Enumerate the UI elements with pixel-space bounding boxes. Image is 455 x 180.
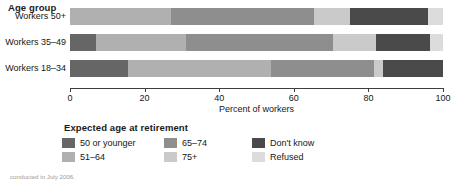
chart-legend: Expected age at retirement 50 or younger… [62,122,362,164]
bar-segment [171,8,315,25]
legend-item: 51–64 [62,152,164,162]
x-axis-line [70,88,444,89]
legend-item: 65–74 [164,138,252,148]
bar-row [70,8,443,25]
category-label: Workers 35–49 [5,37,66,47]
legend-label: 51–64 [80,152,105,162]
legend-item: 75+ [164,152,252,162]
x-axis-tick-label: 40 [214,93,224,103]
bar-row [70,60,443,77]
legend-label: Don't know [270,138,314,148]
x-axis-tick-label: 60 [289,93,299,103]
bar-segment [128,60,272,77]
bar-segment [70,60,128,77]
bar-segment [96,34,186,51]
legend-items: 50 or younger65–74Don't know51–6475+Refu… [62,136,362,164]
bar-segment [383,60,443,77]
legend-label: Refused [270,152,304,162]
bar-segment [333,34,376,51]
legend-swatch [252,152,265,162]
legend-label: 75+ [182,152,197,162]
x-axis-tick [219,88,220,92]
x-axis-tick [70,88,71,92]
legend-swatch [164,152,177,162]
bar-segment [374,60,383,77]
category-label: Workers 18–34 [5,63,66,73]
category-axis-labels: Workers 50+Workers 35–49Workers 18–34 [0,8,66,88]
bar-row [70,34,443,51]
bar-segment [314,8,349,25]
bar-segment [186,34,333,51]
x-axis-title: Percent of workers [70,104,443,114]
legend-swatch [164,138,177,148]
x-axis-tick [443,88,444,92]
x-axis-tick-label: 80 [363,93,373,103]
bar-segment [428,8,443,25]
bar-segment [376,34,430,51]
legend-item: Refused [252,152,362,162]
x-axis-tick-label: 0 [67,93,72,103]
x-axis-tick [368,88,369,92]
category-label: Workers 50+ [15,11,66,21]
legend-swatch [62,138,75,148]
stacked-bar-chart: Age group Workers 50+Workers 35–49Worker… [0,0,455,180]
x-axis-tick [294,88,295,92]
bar-segment [350,8,428,25]
x-axis-tick-label: 20 [140,93,150,103]
legend-item: 50 or younger [62,138,164,148]
legend-swatch [252,138,265,148]
footnote: conducted in July 2006. [10,173,75,180]
plot-area [70,8,443,88]
legend-label: 50 or younger [80,138,136,148]
x-axis-tick-label: 100 [435,93,450,103]
legend-label: 65–74 [182,138,207,148]
bar-segment [70,8,171,25]
bar-segment [271,60,374,77]
legend-item: Don't know [252,138,362,148]
legend-title: Expected age at retirement [64,122,362,133]
bar-segment [70,34,96,51]
x-axis-tick [145,88,146,92]
bar-segment [430,34,443,51]
legend-swatch [62,152,75,162]
